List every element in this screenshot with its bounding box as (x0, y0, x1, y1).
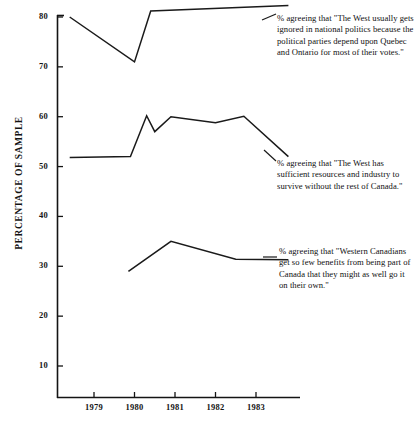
y-axis-title: PERCENTAGE OF SAMPLE (14, 93, 30, 273)
leader-west-ignored (262, 14, 276, 20)
series-line-west-ignored (70, 6, 289, 62)
series-line-go-it-alone (128, 241, 288, 271)
chart-plot-area (0, 0, 418, 440)
y-axis-tick-label: 70 (22, 62, 48, 71)
annotation-west-ignored: % agreeing that "The West usually gets i… (277, 13, 415, 59)
x-axis-tick-label: 1983 (233, 403, 279, 412)
annotation-go-it-alone: % agreeing that "Western Canadians get s… (279, 246, 415, 292)
chart-axes (57, 15, 300, 398)
y-axis-tick-label: 10 (22, 361, 48, 370)
line-chart: 8070605040302010 19791980198119821983 PE… (0, 0, 418, 440)
x-axis-tick-label: 1981 (152, 403, 198, 412)
leader-sufficient-resources (264, 150, 276, 161)
chart-series-lines (70, 6, 289, 272)
x-axis-tick-label: 1982 (193, 403, 239, 412)
x-axis-tick-label: 1980 (112, 403, 158, 412)
y-axis-tick-label: 80 (22, 12, 48, 21)
y-axis-title-text: PERCENTAGE OF SAMPLE (14, 93, 24, 273)
y-axis-tick-label: 20 (22, 311, 48, 320)
annotation-sufficient-resources: % agreeing that "The West has sufficient… (277, 158, 415, 192)
x-axis-tick-label: 1979 (71, 403, 117, 412)
series-line-sufficient-resources (70, 116, 289, 158)
